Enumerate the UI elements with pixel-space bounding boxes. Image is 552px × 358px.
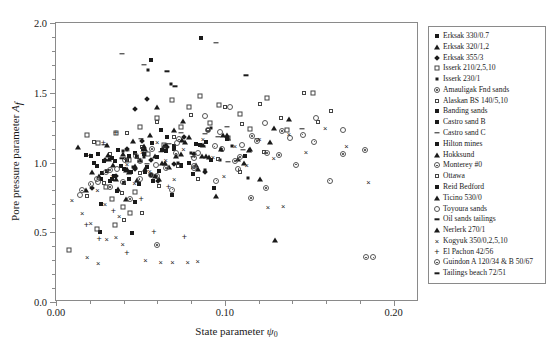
legend-marker-icon — [432, 53, 443, 63]
data-point — [161, 143, 167, 148]
legend-item[interactable]: Ottawa — [432, 171, 543, 181]
data-point — [176, 136, 182, 142]
data-point — [235, 166, 241, 172]
legend-marker-icon — [432, 204, 443, 214]
data-point: × — [220, 172, 227, 179]
legend-item[interactable]: Nerlerk 270/1 — [432, 225, 543, 235]
data-point — [113, 177, 119, 182]
data-point — [246, 176, 249, 179]
y-axis-symbol: A — [8, 105, 20, 112]
data-point — [226, 161, 231, 162]
legend-item[interactable]: Isserk 210/2,5,10 — [432, 63, 543, 73]
data-point: × — [69, 197, 76, 204]
data-point — [180, 118, 186, 123]
legend-item-label: Oil sands tailings — [443, 214, 496, 224]
data-point — [108, 152, 112, 156]
data-point: × — [365, 179, 372, 186]
x-axis-symbol: ψ — [267, 325, 274, 337]
data-point — [79, 187, 85, 193]
data-point — [240, 149, 245, 150]
chart-legend: Erksak 330/0.7Erksak 320/1,2Erksak 355/3… — [428, 26, 546, 284]
legend-item[interactable]: Hilton mines — [432, 139, 543, 149]
data-point — [142, 155, 145, 158]
data-point — [207, 121, 212, 126]
legend-item[interactable]: Hokksund — [432, 150, 543, 160]
data-point — [130, 138, 136, 143]
legend-item[interactable]: Castro sand B — [432, 117, 543, 127]
data-point — [160, 148, 164, 152]
legend-marker-icon — [432, 182, 443, 192]
data-point — [329, 109, 333, 113]
data-point — [127, 196, 133, 202]
data-point — [122, 218, 126, 222]
data-point — [257, 176, 263, 181]
legend-item[interactable]: Isserk 230/1 — [432, 74, 543, 84]
data-point: × — [322, 124, 329, 131]
legend-item[interactable]: Toyoura sands — [432, 204, 543, 214]
legend-item[interactable]: Erksak 320/1,2 — [432, 42, 543, 52]
data-point — [370, 254, 376, 260]
data-point: × — [154, 138, 161, 145]
legend-item[interactable]: Guindon A 120/34 & B 50/67 — [432, 257, 543, 267]
data-point — [153, 162, 159, 168]
y-tick-label: 0.5 — [34, 227, 47, 238]
legend-item[interactable]: Castro sand C — [432, 128, 543, 138]
legend-marker-icon — [432, 128, 443, 138]
data-point — [300, 132, 306, 138]
data-point — [110, 177, 114, 181]
legend-item[interactable]: Banding sands — [432, 106, 543, 116]
legend-item-label: Castro sand C — [443, 128, 486, 138]
legend-item-label: Isserk 210/2,5,10 — [443, 63, 496, 73]
legend-item[interactable]: Monterey #0 — [432, 160, 543, 170]
legend-item[interactable]: Amauligak Fnd sands — [432, 85, 543, 95]
legend-item[interactable]: +El Pachon 42/56 — [432, 247, 543, 257]
data-point — [140, 211, 144, 215]
data-point — [98, 230, 102, 234]
data-point — [165, 70, 170, 71]
legend-marker-icon — [432, 63, 443, 73]
legend-item[interactable]: Erksak 330/0.7 — [432, 31, 543, 41]
x-tick-minor — [191, 300, 192, 304]
legend-item[interactable]: Alaskan BS 140/5,10 — [432, 96, 543, 106]
data-points-layer: ××××××××××××××××××××××××××××××××××××××××… — [56, 23, 417, 300]
data-point — [130, 231, 134, 235]
data-point — [271, 126, 277, 131]
data-point: + — [123, 250, 130, 257]
data-point — [99, 202, 103, 206]
data-point — [104, 143, 110, 148]
legend-item[interactable]: Tailings beach 72/51 — [432, 268, 543, 278]
legend-item[interactable]: Oil sands tailings — [432, 214, 543, 224]
data-point — [241, 160, 247, 165]
data-point: + — [96, 235, 103, 242]
data-point — [154, 173, 160, 179]
legend-item[interactable]: Erksak 355/3 — [432, 53, 543, 63]
data-point — [169, 187, 175, 193]
data-point — [137, 176, 143, 182]
data-point — [202, 169, 208, 175]
data-point — [89, 154, 93, 158]
legend-item-label: Hokksund — [443, 150, 474, 160]
legend-item-label: Amauligak Fnd sands — [443, 85, 509, 95]
data-point — [147, 69, 150, 72]
legend-item[interactable]: Ticino 530/0 — [432, 193, 543, 203]
data-point — [150, 141, 154, 145]
x-axis-title: State parameter ψ0 — [55, 325, 418, 339]
data-point — [213, 178, 219, 184]
data-point — [173, 150, 179, 156]
data-point — [224, 126, 229, 127]
legend-item[interactable]: ×Kogyuk 350/0,2,5,10 — [432, 236, 543, 246]
data-point — [311, 139, 317, 145]
data-point — [148, 172, 154, 178]
data-point — [203, 153, 209, 158]
legend-item-label: Toyoura sands — [443, 204, 487, 214]
data-point — [163, 165, 169, 171]
legend-item[interactable]: Reid Bedford — [432, 182, 543, 192]
data-point — [191, 172, 195, 176]
data-point: + — [83, 221, 90, 228]
data-point — [115, 187, 121, 192]
data-point: × — [103, 236, 110, 243]
data-point — [113, 130, 118, 135]
data-point — [147, 132, 153, 137]
data-point — [132, 163, 138, 168]
legend-marker-icon: + — [432, 247, 443, 257]
